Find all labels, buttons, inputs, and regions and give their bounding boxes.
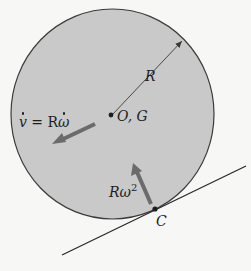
contact-point-label: C [156,214,167,228]
tangential-acceleration-label: v = Rω [19,115,70,129]
exponent-text: 2 [131,182,137,193]
v-dot-symbol: v [19,115,27,129]
r-omega-text: Rω [109,184,131,200]
omega-dot-symbol: ω [58,115,69,129]
diagram-svg [0,0,251,271]
equals-r-text: = R [27,114,58,130]
center-point [109,113,114,118]
normal-acceleration-label: Rω2 [109,183,137,199]
contact-point [152,206,157,211]
center-label: O, G [117,109,148,123]
diagram-canvas: R O, G v = Rω Rω2 C [0,0,251,271]
radius-label: R [145,69,156,83]
